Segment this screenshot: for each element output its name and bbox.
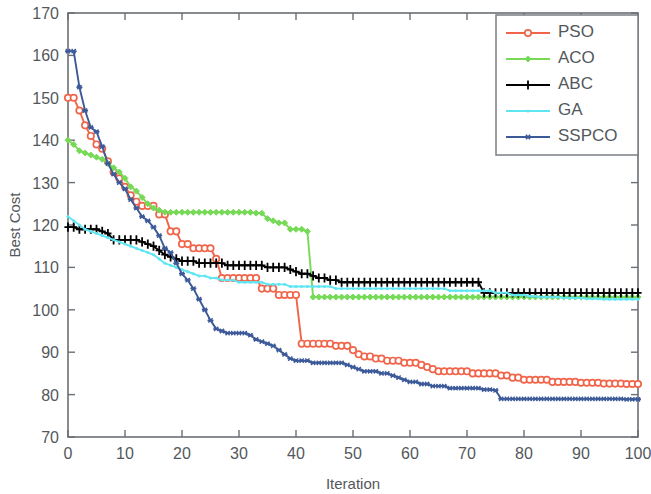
data-marker [409,287,412,290]
data-marker [209,277,212,280]
x-tick-label: 40 [287,445,305,462]
data-marker [300,285,303,288]
data-marker [283,283,286,286]
x-tick-label: 90 [572,445,590,462]
data-marker [397,287,400,290]
data-marker [78,224,81,227]
data-marker [238,281,241,284]
data-marker [488,289,491,292]
data-marker [631,298,634,301]
data-marker [232,279,235,282]
data-marker [203,274,206,277]
x-axis-title: Iteration [326,475,380,492]
data-marker [545,296,548,299]
data-marker [525,30,531,36]
x-tick-label: 30 [230,445,248,462]
data-marker [431,287,434,290]
data-marker [619,298,622,301]
data-marker [454,289,457,292]
y-tick-label: 130 [32,175,59,192]
data-marker [135,247,138,250]
data-marker [118,240,121,243]
data-marker [391,287,394,290]
data-marker [505,291,508,294]
data-marker [568,296,571,299]
y-tick-label: 160 [32,47,59,64]
data-marker [369,287,372,290]
x-tick-label: 10 [116,445,134,462]
legend-label: SSPCO [558,126,618,145]
y-tick-label: 150 [32,90,59,107]
data-marker [249,281,252,284]
data-marker [329,285,332,288]
data-marker [500,291,503,294]
data-marker [173,228,179,234]
data-marker [352,287,355,290]
data-marker [551,296,554,299]
data-marker [483,289,486,292]
data-marker [220,279,223,282]
data-marker [152,253,155,256]
data-marker [253,275,259,281]
data-marker [597,297,600,300]
data-marker [124,243,127,246]
data-marker [637,298,640,301]
data-marker [443,287,446,290]
data-marker [602,298,605,301]
data-marker [557,296,560,299]
y-tick-label: 70 [41,429,59,446]
data-marker [471,289,474,292]
data-marker [260,281,263,284]
data-marker [141,249,144,252]
data-marker [625,298,628,301]
data-marker [574,296,577,299]
data-marker [67,215,70,218]
data-marker [317,285,320,288]
data-marker [466,289,469,292]
data-marker [534,295,537,298]
y-tick-label: 100 [32,302,59,319]
x-tick-label: 0 [64,445,73,462]
legend: PSOACOABCGASSPCO [496,15,638,155]
data-marker [334,287,337,290]
x-tick-label: 50 [344,445,362,462]
data-marker [266,283,269,286]
data-marker [255,281,258,284]
data-marker [95,232,98,235]
data-marker [277,283,280,286]
data-marker [312,285,315,288]
chart-figure: 0102030405060708090100708090100110120130… [0,0,651,494]
data-marker [608,298,611,301]
data-marker [84,228,87,231]
data-marker [511,293,514,296]
data-marker [323,285,326,288]
data-marker [112,238,115,241]
x-tick-label: 20 [173,445,191,462]
data-marker [527,110,530,113]
data-marker [540,296,543,299]
data-marker [198,274,201,277]
y-axis-title: Best Cost [6,192,23,258]
y-tick-label: 90 [41,344,59,361]
y-tick-label: 170 [32,5,59,22]
x-tick-label: 60 [401,445,419,462]
data-marker [76,107,82,113]
data-marker [585,297,588,300]
legend-label: ACO [558,48,595,67]
data-marker [270,285,276,291]
data-marker [437,287,440,290]
data-marker [517,293,520,296]
data-marker [340,287,343,290]
data-marker [363,287,366,290]
data-marker [82,122,88,128]
data-marker [192,272,195,275]
data-marker [580,296,583,299]
data-marker [523,293,526,296]
data-marker [158,257,161,260]
legend-label: ABC [558,74,593,93]
x-tick-label: 100 [625,445,651,462]
data-marker [88,133,94,139]
data-marker [374,287,377,290]
data-marker [89,230,92,233]
y-tick-label: 110 [33,259,59,276]
